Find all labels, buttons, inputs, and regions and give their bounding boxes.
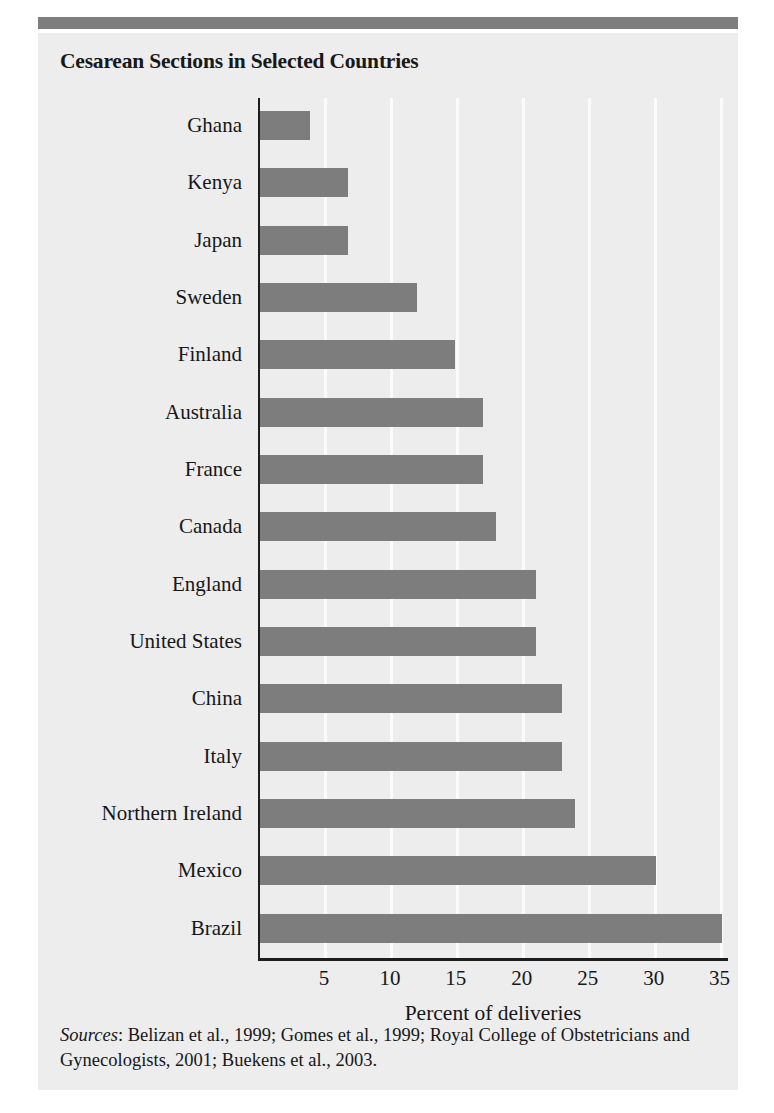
category-label: England: [172, 569, 242, 599]
bar-row: Australia: [258, 385, 742, 442]
bar: [260, 283, 417, 312]
chart-panel: Cesarean Sections in Selected Countries …: [38, 33, 738, 1090]
category-label: Italy: [204, 741, 242, 771]
category-label: United States: [129, 626, 242, 656]
x-tick-label: 20: [511, 966, 532, 991]
bar: [260, 742, 562, 771]
figure-panel: Cesarean Sections in Selected Countries …: [0, 0, 774, 1113]
bar: [260, 111, 310, 140]
sources-text: : Belizan et al., 1999; Gomes et al., 19…: [60, 1025, 690, 1070]
bar: [260, 512, 496, 541]
bar-row: Italy: [258, 729, 742, 786]
category-label: China: [192, 683, 242, 713]
category-label: Japan: [194, 225, 242, 255]
bar: [260, 398, 483, 427]
bar-row: Ghana: [258, 98, 742, 155]
category-label: Australia: [165, 397, 242, 427]
bar: [260, 340, 455, 369]
bar: [260, 856, 656, 885]
bar: [260, 627, 536, 656]
category-label: Mexico: [178, 855, 242, 885]
bar-row: Mexico: [258, 843, 742, 900]
bar-row: England: [258, 557, 742, 614]
bar-row: France: [258, 442, 742, 499]
sources-keyword: Sources: [60, 1025, 118, 1045]
chart-title: Cesarean Sections in Selected Countries: [60, 49, 418, 74]
category-label: Sweden: [176, 282, 243, 312]
category-label: Finland: [178, 339, 242, 369]
bar-row: Northern Ireland: [258, 786, 742, 843]
x-tick-label: 35: [709, 966, 730, 991]
bar: [260, 570, 536, 599]
category-label: Brazil: [191, 913, 242, 943]
bar: [260, 226, 348, 255]
bar: [260, 168, 348, 197]
category-label: Ghana: [187, 110, 242, 140]
bar: [260, 455, 483, 484]
x-tick-label: 10: [379, 966, 400, 991]
top-rule-divider: [38, 17, 738, 29]
category-label: Canada: [179, 511, 242, 541]
bar-row: Brazil: [258, 901, 742, 958]
x-tick-label: 30: [643, 966, 664, 991]
category-label: Northern Ireland: [101, 798, 242, 828]
bar: [260, 914, 722, 943]
x-axis-line: [258, 958, 728, 961]
category-label: Kenya: [187, 167, 242, 197]
bar: [260, 799, 575, 828]
bar-row: United States: [258, 614, 742, 671]
sources-note: Sources: Belizan et al., 1999; Gomes et …: [60, 1023, 720, 1073]
x-tick-label: 5: [319, 966, 330, 991]
bar-row: Finland: [258, 327, 742, 384]
plot-area: GhanaKenyaJapanSwedenFinlandAustraliaFra…: [258, 98, 742, 958]
x-tick-label: 15: [445, 966, 466, 991]
bar-row: China: [258, 671, 742, 728]
category-label: France: [185, 454, 242, 484]
bar-row: Kenya: [258, 155, 742, 212]
x-tick-label: 25: [577, 966, 598, 991]
bar-row: Japan: [258, 213, 742, 270]
bar: [260, 684, 562, 713]
bar-row: Canada: [258, 499, 742, 556]
bar-row: Sweden: [258, 270, 742, 327]
